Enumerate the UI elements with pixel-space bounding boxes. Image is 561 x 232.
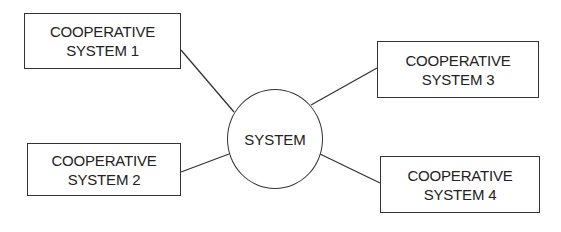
node-line1: COOPERATIVE <box>407 166 512 185</box>
node-cooperative-system-2: COOPERATIVE SYSTEM 2 <box>27 143 181 196</box>
center-label: SYSTEM <box>244 131 306 148</box>
node-line2: SYSTEM 1 <box>66 41 139 60</box>
node-line1: COOPERATIVE <box>50 22 155 41</box>
node-line2: SYSTEM 2 <box>68 170 141 189</box>
node-cooperative-system-4: COOPERATIVE SYSTEM 4 <box>380 156 540 213</box>
node-line1: COOPERATIVE <box>51 151 156 170</box>
node-cooperative-system-3: COOPERATIVE SYSTEM 3 <box>377 41 539 98</box>
edge-system-3 <box>311 68 377 105</box>
edge-system-4 <box>320 154 380 183</box>
node-line1: COOPERATIVE <box>405 51 510 70</box>
center-system-node: SYSTEM <box>227 89 323 189</box>
node-cooperative-system-1: COOPERATIVE SYSTEM 1 <box>24 13 181 69</box>
edge-system-1 <box>181 50 234 112</box>
node-line2: SYSTEM 3 <box>422 70 495 89</box>
node-line2: SYSTEM 4 <box>424 185 497 204</box>
edge-system-2 <box>181 154 229 172</box>
